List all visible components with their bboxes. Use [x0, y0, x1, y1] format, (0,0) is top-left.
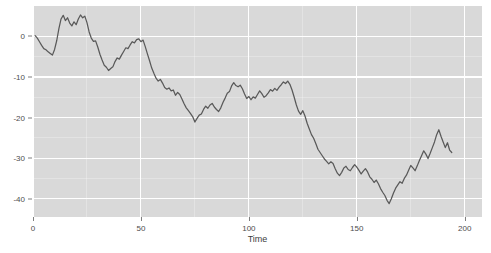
- y-tick-label: -40: [13, 194, 25, 203]
- series-random-walk: [33, 6, 482, 217]
- chart-container: 0-10-20-30-40 050100150200 Time: [0, 0, 491, 253]
- x-axis-title: Time: [33, 234, 482, 244]
- y-tick-label: -30: [13, 154, 25, 163]
- plot-panel: [33, 6, 482, 217]
- x-tick-mark: [249, 217, 250, 221]
- y-tick-label: 0: [21, 32, 25, 41]
- y-tick-mark: [28, 198, 32, 199]
- x-tick-label: 0: [31, 224, 35, 233]
- x-tick-mark: [465, 217, 466, 221]
- y-tick-mark: [28, 117, 32, 118]
- x-tick-mark: [33, 217, 34, 221]
- y-tick-mark: [28, 36, 32, 37]
- series-line-path: [35, 15, 452, 204]
- y-tick-label: -10: [13, 73, 25, 82]
- y-tick-mark: [28, 158, 32, 159]
- x-tick-mark: [141, 217, 142, 221]
- x-tick-label: 50: [136, 224, 145, 233]
- x-tick-label: 150: [350, 224, 363, 233]
- y-tick-label: -20: [13, 113, 25, 122]
- x-tick-label: 100: [242, 224, 255, 233]
- x-tick-label: 200: [458, 224, 471, 233]
- y-axis: 0-10-20-30-40: [0, 0, 33, 253]
- x-tick-mark: [357, 217, 358, 221]
- y-tick-mark: [28, 77, 32, 78]
